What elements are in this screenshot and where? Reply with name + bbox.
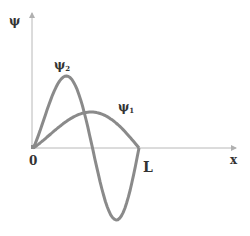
x-axis-label: x [230,153,237,167]
wavefunction-diagram: ψ ψ2 ψ1 0 L x [0,0,250,236]
plot-area [0,0,250,236]
end-label-L: L [143,159,153,175]
origin-label: 0 [29,154,37,168]
psi1-label: ψ1 [118,100,134,115]
y-axis-label: ψ [9,14,20,28]
origin-point [31,145,35,149]
psi2-label: ψ2 [54,58,70,73]
